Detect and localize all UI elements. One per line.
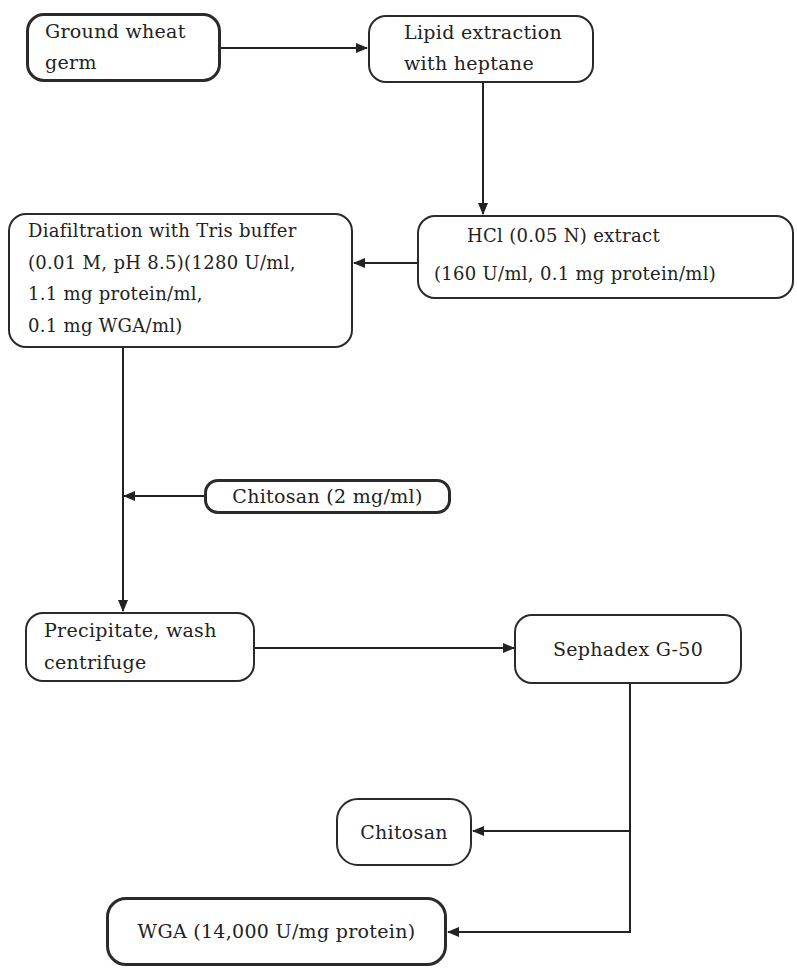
node-text: Diafiltration with Tris buffer xyxy=(28,215,341,247)
node-text: HCl (0.05 N) extract xyxy=(434,217,782,255)
node-text: 1.1 mg protein/ml, xyxy=(28,278,341,310)
node-text: (0.01 M, pH 8.5)(1280 U/ml, xyxy=(28,247,341,279)
node-text: with heptane xyxy=(404,48,582,79)
node-wga: WGA (14,000 U/mg protein) xyxy=(106,897,447,966)
node-text: germ xyxy=(45,47,208,78)
node-ground-wheat-germ: Ground wheat germ xyxy=(26,13,221,82)
node-sephadex: Sephadex G-50 xyxy=(514,614,742,684)
node-text: (160 U/ml, 0.1 mg protein/ml) xyxy=(434,255,782,293)
node-text: Chitosan xyxy=(360,817,448,848)
node-text: centrifuge xyxy=(44,646,243,678)
node-text: Lipid extraction xyxy=(404,17,582,48)
node-text: Ground wheat xyxy=(45,16,208,47)
node-lipid-extraction: Lipid extraction with heptane xyxy=(368,15,594,83)
node-text: 0.1 mg WGA/ml) xyxy=(28,310,341,342)
node-text: WGA (14,000 U/mg protein) xyxy=(138,916,416,947)
node-chitosan-input: Chitosan (2 mg/ml) xyxy=(204,479,451,514)
node-text: Precipitate, wash xyxy=(44,614,243,646)
node-diafiltration: Diafiltration with Tris buffer (0.01 M, … xyxy=(8,213,353,348)
node-chitosan-output: Chitosan xyxy=(336,798,472,866)
node-hcl-extract: HCl (0.05 N) extract (160 U/ml, 0.1 mg p… xyxy=(417,215,794,299)
node-text: Chitosan (2 mg/ml) xyxy=(232,481,422,512)
node-precipitate: Precipitate, wash centrifuge xyxy=(25,612,255,682)
node-text: Sephadex G-50 xyxy=(553,634,703,665)
